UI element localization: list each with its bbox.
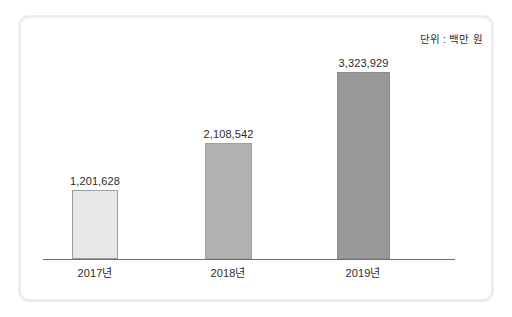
category-label-2019년: 2019년 xyxy=(346,264,381,280)
unit-caption: 단위 : 백만 원 xyxy=(420,31,483,46)
bar-value-label: 1,201,628 xyxy=(70,175,120,187)
category-label-2017년: 2017년 xyxy=(78,264,113,280)
bar-value-label: 3,323,929 xyxy=(339,57,389,69)
bar-value-label: 2,108,542 xyxy=(204,128,254,140)
bar-2017년: 1,201,628 xyxy=(72,190,118,259)
category-label-2018년: 2018년 xyxy=(211,264,246,280)
chart-plot-area: 단위 : 백만 원 1,201,6282,108,5423,323,929 20… xyxy=(0,0,512,317)
x-axis-line xyxy=(43,259,455,260)
bar-2019년: 3,323,929 xyxy=(337,72,390,259)
bar-2018년: 2,108,542 xyxy=(205,143,252,259)
chart-figure: 단위 : 백만 원 1,201,6282,108,5423,323,929 20… xyxy=(0,0,512,317)
